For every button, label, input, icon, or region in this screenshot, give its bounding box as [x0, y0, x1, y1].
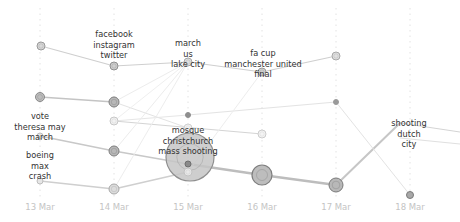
- topic-link: [114, 115, 188, 121]
- topic-node[interactable]: [332, 52, 340, 60]
- topic-link: [262, 175, 336, 185]
- topic-node[interactable]: [109, 146, 119, 156]
- date-label: 14 Mar: [99, 202, 129, 212]
- topic-keywords-label: facebookinstagramtwitter: [93, 29, 135, 60]
- topic-link: [336, 102, 410, 195]
- date-label: 15 Mar: [173, 202, 203, 212]
- topic-node[interactable]: [407, 192, 414, 199]
- date-label: 16 Mar: [247, 202, 277, 212]
- topic-node[interactable]: [186, 113, 191, 118]
- date-label: 13 Mar: [25, 202, 55, 212]
- topic-link: [40, 181, 114, 189]
- date-label: 17 Mar: [321, 202, 351, 212]
- topic-link: [114, 62, 188, 121]
- topic-node[interactable]: [334, 100, 339, 105]
- topic-node[interactable]: [110, 117, 118, 125]
- topic-keywords-label: boeingmaxcrash: [26, 150, 54, 181]
- topic-timeline-chart: facebookinstagramtwittermarchuslake city…: [0, 0, 460, 222]
- topic-node[interactable]: [110, 62, 118, 70]
- topic-keywords-label: marchuslake city: [171, 38, 205, 69]
- topic-node[interactable]: [258, 130, 266, 138]
- topic-node[interactable]: [252, 165, 272, 185]
- topic-node[interactable]: [184, 168, 192, 176]
- topic-node[interactable]: [109, 97, 119, 107]
- topic-node[interactable]: [36, 93, 45, 102]
- topic-node[interactable]: [37, 42, 45, 50]
- x-axis-date-labels: 13 Mar14 Mar15 Mar16 Mar17 Mar18 Mar: [25, 202, 425, 212]
- topic-node[interactable]: [329, 178, 343, 192]
- topic-keywords-label: votetheresa maymarch: [14, 111, 66, 142]
- topic-keywords-label: shootingdutchcity: [391, 118, 426, 149]
- topic-link: [336, 123, 400, 185]
- topic-node[interactable]: [185, 161, 191, 167]
- topic-link: [40, 97, 114, 102]
- date-label: 18 Mar: [395, 202, 425, 212]
- topic-node[interactable]: [109, 184, 119, 194]
- topic-keywords-label: fa cupmanchester unitedfinal: [224, 48, 302, 79]
